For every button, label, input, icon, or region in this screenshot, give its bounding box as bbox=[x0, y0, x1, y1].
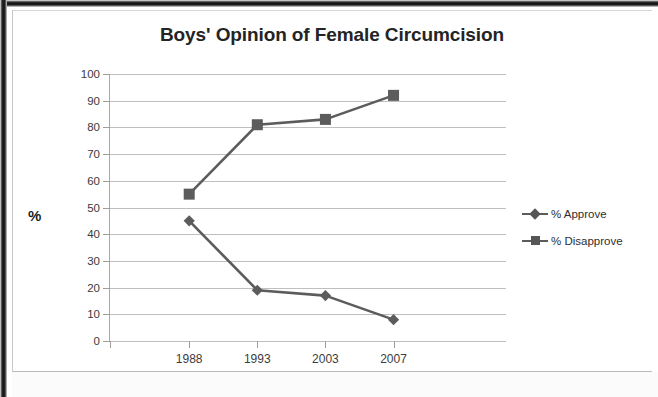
y-tick-mark bbox=[103, 74, 110, 75]
chart-legend: % Approve % Disapprove bbox=[522, 200, 654, 254]
diamond-marker bbox=[388, 314, 399, 325]
y-tick-mark bbox=[103, 154, 110, 155]
legend-item-approve[interactable]: % Approve bbox=[522, 200, 654, 227]
legend-label-approve: % Approve bbox=[551, 208, 607, 220]
square-marker bbox=[320, 114, 331, 125]
y-tick-mark bbox=[103, 314, 110, 315]
series-line bbox=[189, 95, 393, 194]
y-tick-mark bbox=[103, 341, 110, 342]
y-tick-mark bbox=[103, 288, 110, 289]
diamond-marker bbox=[320, 290, 331, 301]
y-tick-mark bbox=[103, 101, 110, 102]
y-tick-mark bbox=[103, 208, 110, 209]
square-marker bbox=[388, 90, 399, 101]
y-tick-mark bbox=[103, 127, 110, 128]
legend-label-disapprove: % Disapprove bbox=[551, 235, 623, 247]
series-overlay bbox=[0, 0, 658, 397]
chart-page: Boys' Opinion of Female Circumcision % 1… bbox=[0, 0, 658, 397]
y-tick-mark bbox=[103, 234, 110, 235]
y-tick-mark bbox=[103, 181, 110, 182]
legend-item-disapprove[interactable]: % Disapprove bbox=[522, 227, 654, 254]
square-marker bbox=[252, 119, 263, 130]
diamond-marker-icon bbox=[522, 208, 548, 220]
series-line bbox=[189, 221, 393, 320]
y-tick-mark bbox=[103, 261, 110, 262]
square-marker bbox=[184, 189, 195, 200]
square-marker-icon bbox=[522, 235, 548, 247]
